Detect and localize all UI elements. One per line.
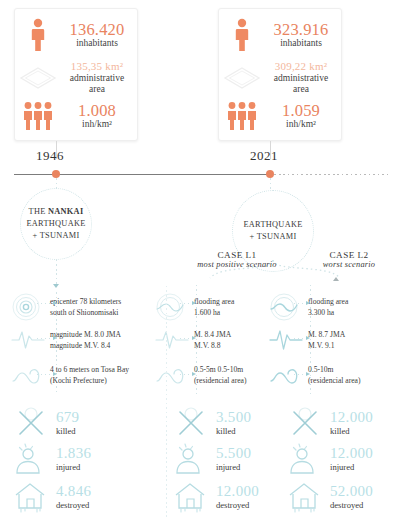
detail-line-2: (residencial area) — [194, 375, 247, 386]
detail-leader-tip — [53, 301, 57, 305]
rhombus-area-icon — [15, 66, 61, 90]
stat-value: 1.008 — [61, 102, 133, 119]
detail-row-wave-height: 0.5-10m (residencial area) — [264, 360, 389, 390]
stat-label: inh/km² — [61, 119, 133, 131]
event-title-pre: THE — [29, 207, 48, 216]
detail-line-1: flooding area — [308, 296, 348, 307]
detail-line-2: magnitude M.V. 8.4 — [50, 340, 121, 351]
injured-person-icon — [282, 443, 328, 475]
stat-row-density: 1.059 inh/km² — [219, 101, 341, 131]
casualty-label: killed — [56, 426, 79, 437]
event-title-nankai: NANKAI — [48, 207, 83, 216]
detail-leader-tip — [192, 301, 196, 305]
timeline-year-2021: 2021 — [250, 148, 278, 164]
casualty-row-destroyed: 52.000 destroyed — [282, 481, 373, 513]
three-people-icon — [15, 101, 61, 131]
casualty-value: 1.836 — [56, 446, 91, 462]
detail-line-1: flooding area — [194, 296, 234, 307]
case-subtitle: worst scenario — [294, 260, 402, 269]
detail-line-2: M.V. 8.8 — [194, 340, 231, 351]
epicenter-icon — [264, 292, 308, 322]
historic-spine — [56, 260, 57, 285]
rhombus-area-icon — [219, 66, 265, 90]
column-separator-1 — [166, 286, 167, 517]
detail-row-flooding: flooding area 3.300 ha — [264, 292, 389, 322]
detail-line-2: 1.600 ha — [194, 307, 234, 318]
detail-line-2: south of Shionomisaki — [50, 307, 121, 318]
casualty-label: killed — [216, 426, 251, 437]
detail-line-1: 4 to 6 meters on Tosa Bay — [50, 364, 129, 375]
seismograph-icon — [6, 325, 50, 355]
casualty-value: 3.500 — [216, 410, 251, 426]
infographic-root: 136.420 inhabitants 135,35 km² administr… — [0, 0, 402, 517]
event-title-line2: + TSUNAMI — [249, 232, 296, 241]
casualty-value: 5.500 — [216, 446, 251, 462]
cross-killed-icon — [282, 406, 328, 440]
stat-label: administrative area — [265, 73, 337, 96]
casualty-label: injured — [56, 462, 91, 473]
detail-row-magnitude: M. 8.4 JMA M.V. 8.8 — [150, 325, 275, 355]
stat-row-area: 309,22 km² administrative area — [219, 61, 341, 96]
casualty-value: 12.000 — [216, 484, 259, 500]
stat-label: inhabitants — [61, 38, 133, 50]
casualty-row-killed: 679 killed — [8, 406, 79, 440]
epicenter-icon — [6, 292, 50, 322]
injured-person-icon — [8, 443, 54, 475]
event-title-line2: EARTHQUAKE — [26, 219, 85, 228]
casualty-row-injured: 1.836 injured — [8, 443, 91, 475]
casualty-label: injured — [216, 462, 251, 473]
casualty-row-destroyed: 12.000 destroyed — [168, 481, 259, 513]
timeline-marker-2021 — [266, 170, 274, 178]
detail-leader-tip — [192, 336, 196, 340]
destroyed-house-icon — [168, 481, 214, 513]
casualty-label: destroyed — [216, 500, 259, 511]
case-title: CASE L1 — [182, 250, 292, 260]
case-header-l1: CASE L1 most positive scenario — [182, 250, 292, 269]
casualty-label: destroyed — [56, 500, 91, 511]
case-header-l2: CASE L2 worst scenario — [294, 250, 402, 269]
casualty-value: 679 — [56, 410, 79, 426]
casualty-row-killed: 12.000 killed — [282, 406, 373, 440]
detail-leader-tip — [53, 336, 57, 340]
stat-value: 323.916 — [265, 21, 337, 38]
case-l2-arrow — [333, 277, 339, 281]
detail-leader-tip — [306, 301, 310, 305]
detail-leader-tip — [192, 372, 196, 376]
detail-row-wave-height: 0.5-5m 0.5-10m (residencial area) — [150, 360, 275, 390]
stat-row-inhabitants: 136.420 inhabitants — [15, 18, 137, 52]
stat-value: 136.420 — [61, 21, 133, 38]
destroyed-house-icon — [282, 481, 328, 513]
detail-line-1: 0.5-5m 0.5-10m — [194, 364, 247, 375]
casualty-label: killed — [330, 426, 373, 437]
seismograph-icon — [150, 325, 194, 355]
case-title: CASE L2 — [294, 250, 402, 260]
detail-row-magnitude: M. 8.7 JMA M.V. 9.1 — [264, 325, 389, 355]
timeline-marker-1946 — [52, 170, 60, 178]
detail-leader-tip — [53, 372, 57, 376]
event-circle-historic: THE NANKAI EARTHQUAKE + TSUNAMI — [20, 188, 92, 260]
detail-line-1: magnitude M. 8.0 JMA — [50, 329, 121, 340]
stat-row-density: 1.008 inh/km² — [15, 101, 137, 131]
detail-line-2: (Kochi Prefecture) — [50, 375, 129, 386]
casualty-row-destroyed: 4.846 destroyed — [8, 481, 91, 513]
detail-line-1: epicenter 78 kilometers — [50, 296, 121, 307]
stat-value: 135,35 km² — [61, 61, 133, 73]
casualty-row-injured: 5.500 injured — [168, 443, 251, 475]
detail-leader-tip — [306, 336, 310, 340]
stat-label: administrative area — [61, 73, 133, 96]
connector-to-future-circle — [270, 178, 271, 192]
detail-line-1: 0.5-10m — [308, 364, 361, 375]
person-icon — [15, 18, 61, 52]
cross-killed-icon — [8, 406, 54, 440]
historic-spine-arrow — [53, 284, 59, 288]
event-title-line1: EARTHQUAKE — [243, 220, 302, 229]
timeline-year-1946: 1946 — [36, 148, 64, 164]
casualty-value: 12.000 — [330, 446, 373, 462]
epicenter-icon — [150, 292, 194, 322]
stat-row-area: 135,35 km² administrative area — [15, 61, 137, 96]
detail-leader-tip — [306, 372, 310, 376]
timeline-line-dotted — [270, 174, 388, 175]
casualty-label: injured — [330, 462, 373, 473]
seismograph-icon — [264, 325, 308, 355]
person-icon — [219, 18, 265, 52]
